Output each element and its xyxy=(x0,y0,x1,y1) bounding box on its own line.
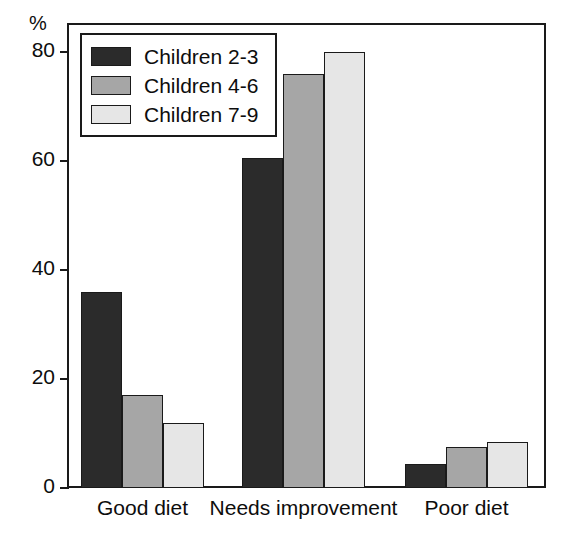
bar xyxy=(446,447,487,488)
legend-swatch-children-4-6 xyxy=(91,76,131,95)
y-axis-tick xyxy=(60,160,69,162)
y-axis-tick xyxy=(60,269,69,271)
bar-chart: % 020406080 Good dietNeeds improvementPo… xyxy=(0,0,574,545)
legend-item: Children 2-3 xyxy=(91,42,267,71)
bar xyxy=(163,423,204,488)
legend-item: Children 4-6 xyxy=(91,71,267,100)
y-axis-tick-label: 80 xyxy=(0,38,55,62)
y-axis-tick xyxy=(60,51,69,53)
x-axis-group-label: Needs improvement xyxy=(210,496,398,520)
bar xyxy=(122,395,163,488)
legend-swatch-children-7-9 xyxy=(91,105,131,124)
legend-label-children-7-9: Children 7-9 xyxy=(144,103,258,127)
y-axis-title: % xyxy=(29,12,47,35)
x-axis-group-label: Poor diet xyxy=(424,496,508,520)
legend-swatch-children-2-3 xyxy=(91,47,131,66)
y-axis-tick xyxy=(60,487,69,489)
x-axis-group-label: Good diet xyxy=(97,496,188,520)
bar xyxy=(405,464,446,489)
y-axis-tick-label: 60 xyxy=(0,147,55,171)
legend-label-children-2-3: Children 2-3 xyxy=(144,45,258,69)
bar xyxy=(324,52,365,488)
y-axis-tick-label: 40 xyxy=(0,256,55,280)
bar xyxy=(283,74,324,488)
legend: Children 2-3 Children 4-6 Children 7-9 xyxy=(80,33,277,137)
y-axis-tick-label: 0 xyxy=(0,474,55,498)
bar xyxy=(487,442,528,488)
legend-item: Children 7-9 xyxy=(91,100,267,129)
bar xyxy=(81,292,122,488)
bar xyxy=(242,158,283,488)
y-axis-tick-label: 20 xyxy=(0,365,55,389)
y-axis-tick xyxy=(60,378,69,380)
legend-label-children-4-6: Children 4-6 xyxy=(144,74,258,98)
